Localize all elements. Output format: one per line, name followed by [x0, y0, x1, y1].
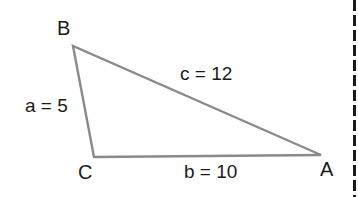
vertex-label-b: B	[57, 18, 70, 38]
side-label-c: c = 12	[180, 64, 232, 83]
side-label-a: a = 5	[25, 96, 68, 115]
vertex-label-a: A	[320, 159, 333, 179]
vertex-label-c: C	[78, 162, 92, 182]
side-label-b: b = 10	[184, 162, 237, 181]
